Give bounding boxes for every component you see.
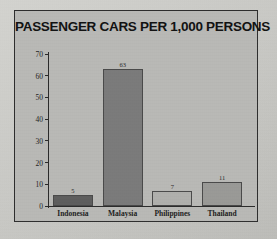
screenshot-page: PASSENGER CARS PER 1,000 PERSONS 0 10 20…: [0, 0, 277, 239]
y-tick-label: 30: [36, 136, 44, 145]
y-tick-label: 50: [36, 93, 44, 102]
bar-thailand[interactable]: 11: [202, 182, 242, 206]
bar-value-label: 63: [119, 61, 126, 68]
y-tick-label: 10: [36, 180, 44, 189]
bar-slot-philippines: 7: [148, 54, 198, 206]
x-axis-line: [48, 206, 255, 207]
x-category-label-philippines: Philippines: [148, 209, 198, 218]
bar-value-label: 7: [171, 183, 174, 190]
chart-title: PASSENGER CARS PER 1,000 PERSONS: [15, 19, 259, 34]
bar-series: 5 63 7 11: [48, 54, 247, 206]
bar-malaysia[interactable]: 63: [103, 69, 143, 206]
x-category-label-malaysia: Malaysia: [98, 209, 148, 218]
y-tick-label: 60: [36, 71, 44, 80]
bar-value-label: 11: [219, 174, 225, 181]
y-tick-label: 0: [39, 202, 43, 211]
bar-slot-malaysia: 63: [98, 54, 148, 206]
y-tick-label: 40: [36, 115, 44, 124]
bar-value-label: 5: [71, 187, 74, 194]
bar-slot-indonesia: 5: [48, 54, 98, 206]
y-tick-label: 20: [36, 158, 44, 167]
plot-area: 0 10 20 30 40 50: [48, 54, 247, 206]
y-tick-label: 70: [36, 50, 44, 59]
chart-panel: PASSENGER CARS PER 1,000 PERSONS 0 10 20…: [14, 10, 258, 222]
bar-philippines[interactable]: 7: [152, 191, 192, 206]
x-category-label-thailand: Thailand: [197, 209, 247, 218]
x-category-label-indonesia: Indonesia: [48, 209, 98, 218]
bar-indonesia[interactable]: 5: [53, 195, 93, 206]
bar-slot-thailand: 11: [197, 54, 247, 206]
